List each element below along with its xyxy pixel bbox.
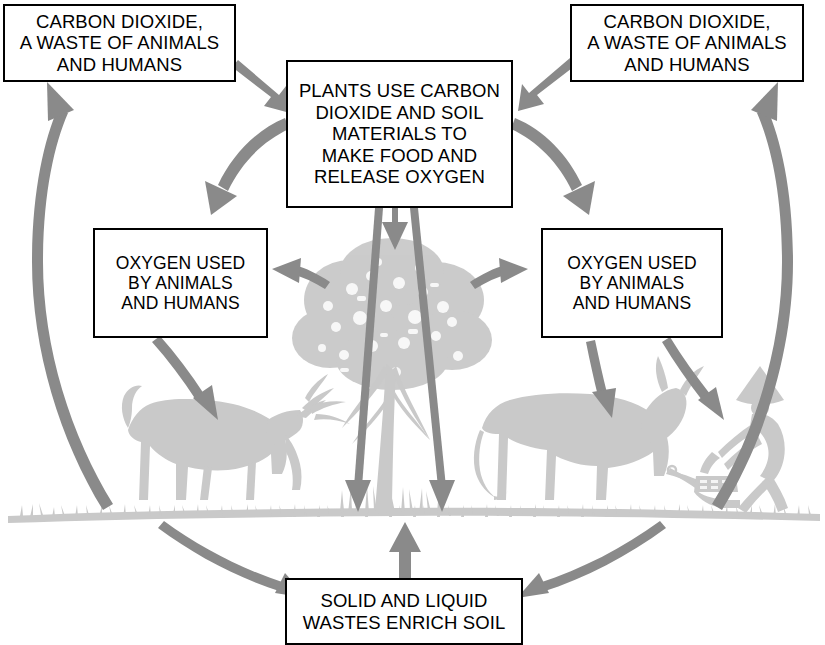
box-oxygen-used-right-text: OXYGEN USED BY ANIMALS AND HUMANS bbox=[567, 253, 696, 314]
carbon-oxygen-cycle-diagram: CARBON DIOXIDE, A WASTE OF ANIMALS AND H… bbox=[0, 0, 825, 645]
box-oxygen-used-left-text: OXYGEN USED BY ANIMALS AND HUMANS bbox=[116, 253, 245, 314]
box-wastes-enrich-soil-text: SOLID AND LIQUID WASTES ENRICH SOIL bbox=[303, 590, 506, 633]
box-oxygen-used-right: OXYGEN USED BY ANIMALS AND HUMANS bbox=[541, 228, 723, 338]
box-plants-photosynthesis: PLANTS USE CARBON DIOXIDE AND SOIL MATER… bbox=[286, 60, 513, 208]
box-carbon-dioxide-right: CARBON DIOXIDE, A WASTE OF ANIMALS AND H… bbox=[570, 4, 804, 82]
box-plants-photosynthesis-text: PLANTS USE CARBON DIOXIDE AND SOIL MATER… bbox=[299, 80, 500, 187]
box-carbon-dioxide-right-text: CARBON DIOXIDE, A WASTE OF ANIMALS AND H… bbox=[587, 11, 787, 75]
box-carbon-dioxide-left: CARBON DIOXIDE, A WASTE OF ANIMALS AND H… bbox=[3, 4, 236, 82]
box-carbon-dioxide-left-text: CARBON DIOXIDE, A WASTE OF ANIMALS AND H… bbox=[20, 11, 220, 75]
box-wastes-enrich-soil: SOLID AND LIQUID WASTES ENRICH SOIL bbox=[285, 578, 523, 645]
box-oxygen-used-left: OXYGEN USED BY ANIMALS AND HUMANS bbox=[93, 228, 268, 338]
